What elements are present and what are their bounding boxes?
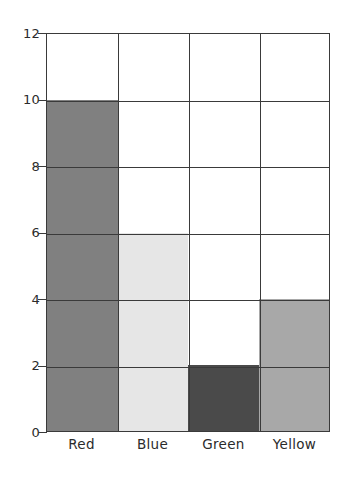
bar-blue[interactable]: [118, 233, 189, 432]
bar-cell-yellow: [259, 34, 330, 431]
y-axis-label-8: 8: [0, 160, 40, 173]
x-axis-label-yellow: Yellow: [259, 438, 330, 452]
y-axis-label-12: 12: [0, 27, 40, 40]
x-axis-label-blue: Blue: [117, 438, 188, 452]
bar-cell-red: [47, 34, 118, 431]
plot-area: [46, 33, 330, 432]
bar-green[interactable]: [188, 365, 259, 431]
bars-layer: [47, 34, 329, 431]
y-axis-label-4: 4: [0, 293, 40, 306]
bar-cell-green: [188, 34, 259, 431]
y-axis-tick-0: [38, 432, 47, 433]
x-axis-label-red: Red: [46, 438, 117, 452]
bar-yellow[interactable]: [259, 299, 330, 431]
y-axis-label-10: 10: [0, 93, 40, 106]
bar-cell-blue: [118, 34, 189, 431]
bar-chart: 12 10 8 6 4 2 0: [0, 0, 343, 478]
y-axis-label-6: 6: [0, 226, 40, 239]
x-axis-label-green: Green: [188, 438, 259, 452]
bar-red[interactable]: [47, 100, 118, 431]
y-axis-label-2: 2: [0, 359, 40, 372]
y-axis-label-0: 0: [0, 426, 40, 439]
x-axis: Red Blue Green Yellow: [46, 438, 330, 452]
